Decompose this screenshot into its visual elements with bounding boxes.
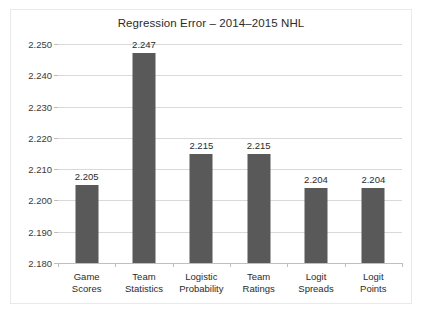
x-axis-category-label: LogitPoints — [360, 271, 386, 294]
y-axis-tick-label: 2.220 — [28, 132, 52, 143]
x-axis-category-label-line: Spreads — [298, 283, 333, 295]
bar — [75, 185, 98, 263]
bar — [362, 188, 385, 263]
bar — [190, 154, 213, 264]
bar-value-label: 2.215 — [247, 140, 271, 151]
x-axis-category-label-line: Ratings — [243, 283, 275, 295]
bar-value-label: 2.204 — [361, 174, 385, 185]
x-axis-tick-mark — [173, 263, 174, 267]
x-axis-category-label-line: Logit — [360, 271, 386, 283]
x-axis-tick-mark — [115, 263, 116, 267]
x-axis-category-label-line: Statistics — [125, 283, 163, 295]
x-axis-category-label: GameScores — [72, 271, 102, 294]
y-axis-tick-label: 2.200 — [28, 195, 52, 206]
x-axis-category-label: TeamRatings — [243, 271, 275, 294]
bar-value-label: 2.205 — [75, 171, 99, 182]
x-axis-tick-mark — [402, 263, 403, 267]
x-axis-tick-mark — [287, 263, 288, 267]
bar-value-label: 2.215 — [189, 140, 213, 151]
bar — [304, 188, 327, 263]
chart-title: Regression Error – 2014–2015 NHL — [11, 17, 411, 29]
x-axis-tick-mark — [345, 263, 346, 267]
bar-group: 2.215LogisticProbability — [173, 44, 230, 263]
y-axis-tick-label: 2.210 — [28, 164, 52, 175]
x-axis-category-label-line: Scores — [72, 283, 102, 295]
y-axis-tick-label: 2.250 — [28, 39, 52, 50]
x-axis-category-label-line: Logit — [298, 271, 333, 283]
x-axis-tick-mark — [230, 263, 231, 267]
x-axis-category-label-line: Logistic — [179, 271, 223, 283]
bar-group: 2.204LogitPoints — [345, 44, 402, 263]
plot-area: 2.2502.2402.2302.2202.2102.2002.1902.180… — [58, 44, 402, 263]
x-axis-category-label-line: Probability — [179, 283, 223, 295]
bar-group: 2.215TeamRatings — [230, 44, 287, 263]
x-axis-category-label-line: Points — [360, 283, 386, 295]
x-axis-category-label-line: Game — [72, 271, 102, 283]
x-axis-category-label-line: Team — [243, 271, 275, 283]
x-axis-category-label-line: Team — [125, 271, 163, 283]
bar-group: 2.205GameScores — [58, 44, 115, 263]
bar-group: 2.204LogitSpreads — [287, 44, 344, 263]
x-axis-category-label: LogisticProbability — [179, 271, 223, 294]
y-axis-tick-label: 2.180 — [28, 258, 52, 269]
bar-value-label: 2.204 — [304, 174, 328, 185]
x-axis-tick-mark — [58, 263, 59, 267]
y-axis-tick-label: 2.240 — [28, 70, 52, 81]
bar — [132, 53, 155, 263]
y-axis-tick-label: 2.230 — [28, 101, 52, 112]
x-axis-category-label: TeamStatistics — [125, 271, 163, 294]
bar — [247, 154, 270, 264]
x-axis-category-label: LogitSpreads — [298, 271, 333, 294]
y-axis-tick-label: 2.190 — [28, 226, 52, 237]
chart-figure: Regression Error – 2014–2015 NHL 2.2502.… — [10, 9, 412, 304]
bar-value-label: 2.247 — [132, 39, 156, 50]
bar-group: 2.247TeamStatistics — [115, 44, 172, 263]
